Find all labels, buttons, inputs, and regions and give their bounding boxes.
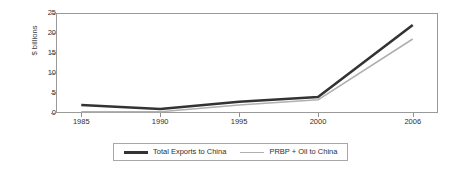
x-tick-mark: [413, 113, 414, 117]
legend-item[interactable]: Total Exports to China: [124, 148, 226, 156]
legend-line-swatch-icon: [240, 152, 264, 153]
x-tick-label: 2000: [288, 118, 348, 126]
x-tick-mark: [160, 113, 161, 117]
legend-label: PRBP + Oil to China: [269, 148, 337, 156]
x-tick-label: 1990: [130, 118, 190, 126]
x-tick-mark: [239, 113, 240, 117]
legend-item[interactable]: PRBP + Oil to China: [240, 148, 337, 156]
legend-label: Total Exports to China: [153, 148, 226, 156]
line-chart-figure: $ billions 0510152025 198519901995200020…: [0, 0, 460, 169]
chart-legend: Total Exports to ChinaPRBP + Oil to Chin…: [113, 143, 348, 161]
x-tick-label: 2006: [383, 118, 443, 126]
x-tick-label: 1985: [51, 118, 111, 126]
x-tick-label: 1995: [209, 118, 269, 126]
legend-line-swatch-icon: [124, 151, 148, 154]
x-tick-mark: [318, 113, 319, 117]
x-tick-mark: [81, 113, 82, 117]
